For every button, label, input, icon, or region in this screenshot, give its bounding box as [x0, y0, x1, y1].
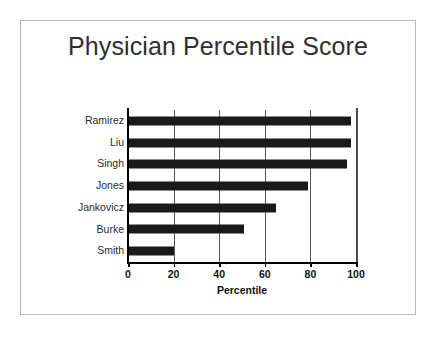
bar-singh[interactable]	[128, 160, 347, 169]
x-tick-label-100: 100	[347, 268, 365, 280]
plot-area	[128, 110, 356, 262]
bar-burke[interactable]	[128, 225, 244, 234]
bar-row	[128, 175, 356, 197]
x-tick-label-40: 40	[213, 268, 225, 280]
x-tick-label-0: 0	[125, 268, 131, 280]
x-tick-mark-80	[310, 262, 312, 267]
y-axis-label-burke: Burke	[97, 219, 124, 241]
x-tick-mark-40	[219, 262, 221, 267]
y-axis-label-jones: Jones	[96, 175, 124, 197]
x-tick-label-60: 60	[259, 268, 271, 280]
x-axis-title: Percentile	[128, 284, 356, 296]
y-axis-label-singh: Singh	[97, 153, 124, 175]
y-axis-label-ramirez: Ramirez	[85, 110, 124, 132]
bar-smith[interactable]	[128, 247, 174, 256]
bar-row	[128, 197, 356, 219]
x-axis-line	[127, 262, 358, 264]
y-axis-category-labels: RamirezLiuSinghJonesJankoviczBurkeSmith	[40, 110, 124, 262]
bar-jankovicz[interactable]	[128, 203, 276, 212]
chart-title: Physician Percentile Score	[20, 32, 416, 61]
y-axis-label-liu: Liu	[110, 132, 124, 154]
x-tick-label-80: 80	[305, 268, 317, 280]
bar-ramirez[interactable]	[128, 116, 351, 125]
bar-row	[128, 240, 356, 262]
x-tick-label-20: 20	[168, 268, 180, 280]
bar-row	[128, 132, 356, 154]
y-axis-label-smith: Smith	[97, 240, 124, 262]
bar-row	[128, 153, 356, 175]
y-axis-line	[127, 108, 129, 264]
x-tick-mark-20	[174, 262, 176, 267]
x-tick-mark-60	[265, 262, 267, 267]
x-tick-mark-0	[128, 262, 130, 267]
bar-liu[interactable]	[128, 138, 351, 147]
plot-right-edge-line	[356, 108, 358, 262]
bar-jones[interactable]	[128, 181, 308, 190]
bar-row	[128, 110, 356, 132]
bar-row	[128, 219, 356, 241]
slide-canvas: Physician Percentile Score RamirezLiuSin…	[0, 0, 438, 341]
y-axis-label-jankovicz: Jankovicz	[78, 197, 124, 219]
x-tick-mark-100	[356, 262, 358, 267]
bar-series	[128, 110, 356, 262]
